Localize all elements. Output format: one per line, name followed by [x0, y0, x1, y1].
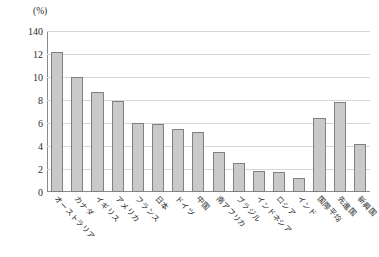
y-axis-tick-label: 12	[3, 49, 43, 60]
y-axis-tick-label: 10	[3, 72, 43, 83]
gridline	[47, 31, 370, 32]
x-axis-category-label: 新興国	[356, 195, 378, 218]
bar	[233, 163, 245, 192]
bar	[71, 77, 83, 192]
x-axis-category-label: インド	[295, 195, 317, 218]
x-axis-category-labels: オーストラリアカナダイギリスアメリカフランス日本ドイツ中国南アフリカブラジルイン…	[47, 193, 370, 257]
y-axis-unit-label: (%)	[33, 6, 47, 16]
y-axis-tick-label: 8	[3, 95, 43, 106]
bar	[51, 52, 63, 192]
bar	[313, 118, 325, 192]
bar	[334, 102, 346, 192]
gridline	[47, 54, 370, 55]
bar	[354, 144, 366, 192]
bar	[112, 101, 124, 192]
y-axis-tick-label: 140	[3, 26, 43, 37]
bar-chart: (%) 140121086420 オーストラリアカナダイギリスアメリカフランス日…	[0, 0, 379, 257]
bar	[213, 152, 225, 192]
y-axis-tick-label: 4	[3, 141, 43, 152]
y-axis-line	[47, 31, 48, 192]
bar	[273, 172, 285, 192]
x-axis-category-label: 日本	[154, 195, 170, 212]
plot-area	[47, 31, 370, 192]
bar	[293, 178, 305, 192]
bar	[132, 123, 144, 192]
bar	[253, 171, 265, 192]
y-axis-tick-label: 6	[3, 118, 43, 129]
bar	[91, 92, 103, 192]
x-axis-category-label: 中国	[194, 195, 210, 212]
bar	[192, 132, 204, 192]
bar	[172, 129, 184, 192]
y-axis-tick-labels: 140121086420	[0, 31, 43, 192]
y-axis-tick-label: 2	[3, 164, 43, 175]
gridline	[47, 77, 370, 78]
y-axis-tick-label: 0	[3, 187, 43, 198]
bar	[152, 124, 164, 192]
x-axis-category-label: ドイツ	[174, 195, 196, 218]
